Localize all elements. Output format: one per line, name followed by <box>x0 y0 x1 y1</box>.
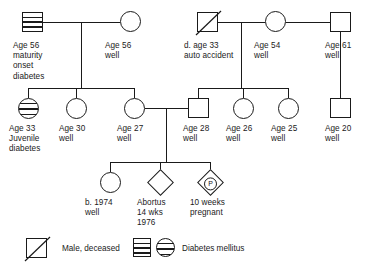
sibling-drop-g2-child-2 <box>76 88 77 98</box>
sibling-drop-g2-child-1 <box>28 88 29 98</box>
g1-male-3-symbol <box>330 12 351 32</box>
g2-child-3-symbol <box>124 98 145 119</box>
legend-diabetes-square-symbol <box>133 238 151 257</box>
legend-diabetes-label: Diabetes mellitus <box>182 244 244 254</box>
sibling-drop-g2-child-3 <box>134 88 135 98</box>
g2-child-5-label: Age 26 well <box>226 124 252 144</box>
pedigree-chart-figure: Age 56 maturity onset diabetes Age 56 we… <box>0 0 375 271</box>
sibship-bar-left <box>28 88 134 89</box>
g1-female-1-label: Age 56 well <box>105 41 131 61</box>
g2-child-7-symbol <box>330 98 351 118</box>
g1-female-2-symbol <box>265 11 286 32</box>
g1-male-1-label: Age 56 maturity onset diabetes <box>13 41 44 82</box>
g2-child-7-label: Age 20 well <box>325 124 351 144</box>
g2-child-2-label: Age 30 well <box>59 124 85 144</box>
g3-child-2-label: Abortus 14 wks 1976 <box>137 198 166 229</box>
g1-male-2-label: d. age 33 auto accident <box>184 41 233 61</box>
g2-child-4-label: Age 28 well <box>183 124 209 144</box>
g1-male-2-symbol <box>197 12 218 32</box>
g1-male-3-label: Age 61 well <box>325 41 351 61</box>
g3-child-3-symbol: P <box>197 169 224 196</box>
g1-female-2-label: Age 54 well <box>254 41 280 61</box>
sibling-drop-g3-child-1 <box>110 162 111 172</box>
sibling-drop-g2-child-4 <box>198 88 199 98</box>
g2-child-1-symbol <box>18 98 39 119</box>
mating-line-couple-right-second <box>286 22 330 23</box>
descent-line-g2-couple <box>166 108 167 162</box>
g3-child-1-symbol <box>100 172 121 193</box>
g2-child-6-label: Age 25 well <box>271 124 297 144</box>
g1-male-1-symbol <box>22 12 43 32</box>
g3-child-2-symbol <box>147 169 174 196</box>
g1-female-1-symbol <box>120 11 141 32</box>
legend-male-deceased-label: Male, deceased <box>62 244 120 254</box>
g3-child-3-label: 10 weeks pregnant <box>190 198 225 218</box>
g2-child-3-label: Age 27 well <box>117 124 143 144</box>
g2-child-6-symbol <box>278 98 299 119</box>
sibling-drop-g2-child-5 <box>243 88 244 98</box>
deceased-slash-icon <box>194 9 223 37</box>
legend-diabetes-circle-symbol <box>156 238 175 257</box>
sibling-drop-g2-child-6 <box>288 88 289 98</box>
g2-child-1-label: Age 33 Juvenile diabetes <box>9 124 40 155</box>
pregnancy-marker: P <box>201 174 220 193</box>
legend-male-deceased-symbol <box>26 238 47 258</box>
g2-child-2-symbol <box>66 98 87 119</box>
descent-line-couple-right-first <box>241 22 242 88</box>
pregnancy-p-letter: P <box>204 177 217 190</box>
g3-child-1-label: b. 1974 well <box>85 198 113 218</box>
g2-child-5-symbol <box>233 98 254 119</box>
descent-line-couple-left <box>81 22 82 88</box>
g2-child-4-symbol <box>188 98 209 118</box>
legend-deceased-slash-icon <box>23 235 52 263</box>
